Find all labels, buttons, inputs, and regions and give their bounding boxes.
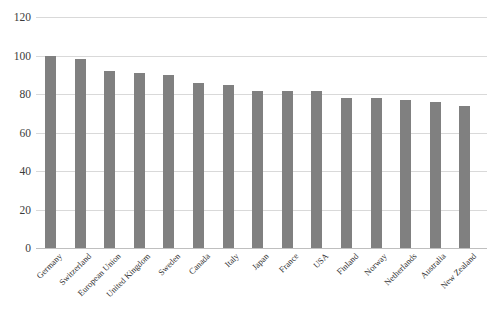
x-tick-label-australia: Australia: [419, 251, 448, 280]
bar-switzerland: [75, 59, 86, 248]
bar-france: [282, 91, 293, 248]
x-tick-label-sweden: Sweden: [156, 251, 182, 277]
x-tick-label-finland: Finland: [334, 251, 360, 277]
bars-layer: [36, 17, 487, 248]
bar-united-kingdom: [134, 73, 145, 248]
y-tick-label-40: 40: [0, 165, 31, 177]
x-tick-label-france: France: [277, 251, 301, 275]
y-tick-label-20: 20: [0, 204, 31, 216]
y-tick-label-100: 100: [0, 50, 31, 62]
y-tick-label-0: 0: [0, 242, 31, 254]
y-tick-label-120: 120: [0, 11, 31, 23]
bar-canada: [193, 83, 204, 248]
x-axis-tick-labels: GermanySwitzerlandEuropean UnionUnited K…: [36, 248, 487, 333]
x-tick-label-japan: Japan: [249, 251, 270, 272]
x-tick-label-canada: Canada: [186, 251, 211, 276]
x-tick-label-usa: USA: [311, 251, 330, 270]
bar-new-zealand: [459, 106, 470, 248]
bar-australia: [430, 102, 441, 248]
x-tick-label-italy: Italy: [223, 251, 241, 269]
bar-norway: [371, 98, 382, 248]
bar-netherlands: [400, 100, 411, 248]
y-tick-label-80: 80: [0, 88, 31, 100]
x-tick-label-norway: Norway: [362, 251, 389, 278]
bar-sweden: [163, 75, 174, 248]
bar-finland: [341, 98, 352, 248]
bar-european-union: [104, 71, 115, 248]
y-axis-tick-labels: 020406080100120: [0, 17, 31, 248]
y-tick-label-60: 60: [0, 127, 31, 139]
bar-germany: [45, 56, 56, 249]
bar-usa: [311, 91, 322, 248]
bar-japan: [252, 91, 263, 248]
bar-italy: [223, 85, 234, 248]
bar-chart: 020406080100120 GermanySwitzerlandEurope…: [0, 0, 494, 333]
